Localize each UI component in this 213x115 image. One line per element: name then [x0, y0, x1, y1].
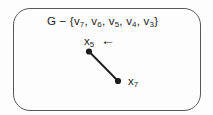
edge-line [89, 52, 118, 82]
node-dot-x7 [115, 78, 121, 84]
node-dot-x5 [86, 48, 92, 54]
node-label-x7: x7 [128, 75, 138, 87]
figure-canvas: G − {v7, v6, v5, v4, v3} x5 ← x7 [0, 0, 213, 115]
node-label-x7-subscript: 7 [134, 80, 138, 89]
edge-graphic [0, 0, 213, 115]
